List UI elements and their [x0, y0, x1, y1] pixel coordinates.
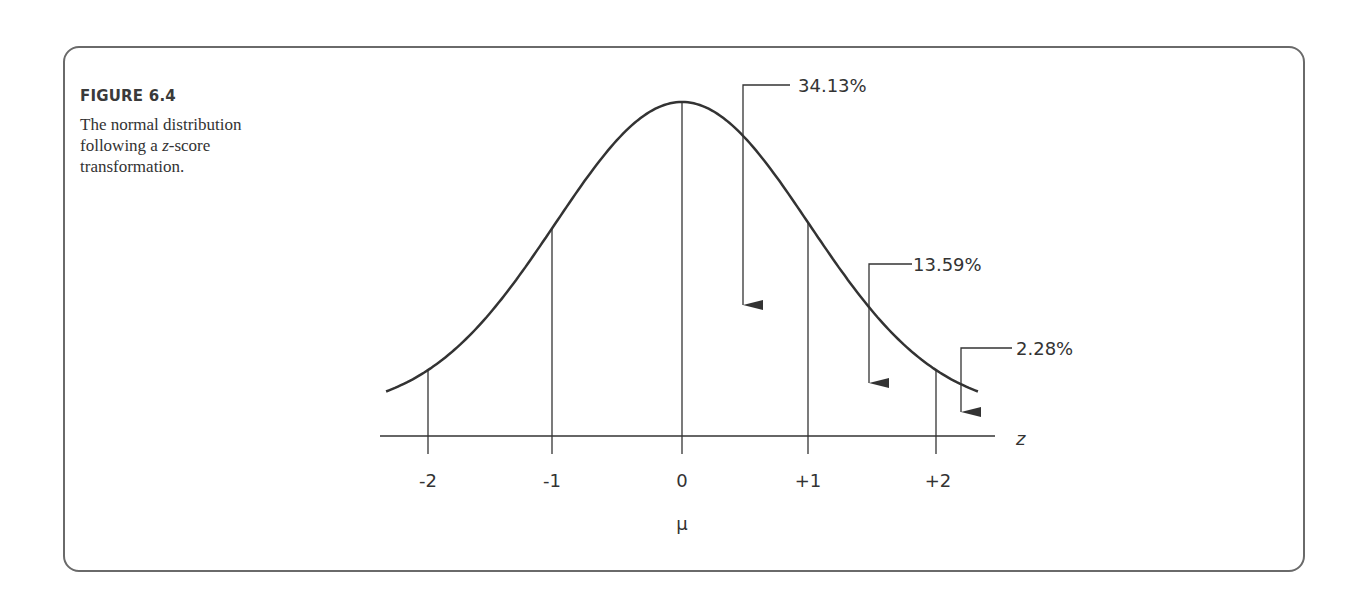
tick-label-0: 0 — [676, 470, 687, 491]
tick-label-neg2: -2 — [419, 470, 437, 491]
annotation-2-28: 2.28% — [1016, 338, 1073, 359]
annotation-leaders — [743, 85, 1012, 412]
normal-distribution-plot: 34.13% 13.59% 2.28% -2 -1 0 +1 +2 μ z — [0, 0, 1367, 593]
annotation-34-13: 34.13% — [798, 75, 867, 96]
tick-label-neg1: -1 — [543, 470, 561, 491]
mean-label: μ — [676, 513, 688, 534]
annotation-13-59: 13.59% — [913, 254, 982, 275]
sd-lines — [428, 102, 936, 454]
tick-label-pos1: +1 — [795, 470, 822, 491]
tick-label-pos2: +2 — [925, 470, 952, 491]
x-axis-label: z — [1015, 428, 1026, 449]
